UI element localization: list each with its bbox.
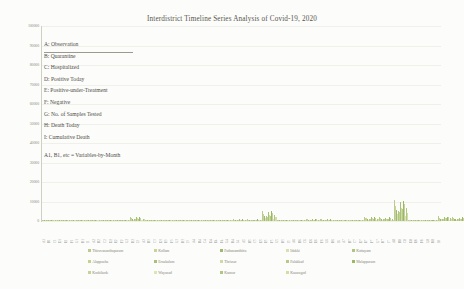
x-axis-label: E1 [64, 223, 68, 243]
x-axis-label: E4 [214, 223, 218, 243]
legend-item[interactable]: Wayanad [154, 267, 220, 278]
bar-group [423, 26, 438, 221]
bar-group [438, 26, 453, 221]
legend-item[interactable]: Alappuzha [88, 256, 154, 267]
legend-item[interactable]: Thrissur [220, 256, 286, 267]
x-axis-label: A3 [142, 223, 146, 243]
legend-swatch [286, 271, 289, 274]
x-axis-label: A7 [342, 223, 346, 243]
x-axis-label: H5 [281, 223, 285, 243]
legend-item[interactable]: Idukki [286, 245, 352, 256]
legend-label: Kasaragod [290, 271, 306, 275]
x-axis-label-cell: D4 [208, 223, 214, 243]
x-axis-label: F3 [170, 223, 174, 243]
x-axis-label: H3 [181, 223, 185, 243]
bar-group [452, 26, 464, 221]
legend-swatch [154, 260, 157, 263]
x-axis-label-cell: F4 [219, 223, 225, 243]
x-axis-labels: A1B1C1D1E1F1G1H1I1A2B2C2D2E2F2G2H2I2A3B3… [41, 223, 441, 243]
x-axis-label-cell: H5 [280, 223, 286, 243]
legend-swatch [352, 260, 355, 263]
bar-group [262, 26, 277, 221]
variable-key: A: ObservationB: QuarantineC: Hospitaliz… [44, 39, 162, 143]
y-axis-tick-label: 40000 [30, 141, 39, 145]
x-axis-label: I5 [287, 223, 291, 243]
y-axis-tick-label: 60000 [30, 102, 39, 106]
x-axis-label: C6 [303, 223, 307, 243]
variable-key-row: G: No. of Samples Tested [44, 109, 162, 121]
x-axis-label: C4 [203, 223, 207, 243]
legend-label: Malappuram [356, 260, 375, 264]
variable-key-row: D: Positive Today [44, 74, 162, 86]
variable-key-row: A: Observation [44, 39, 162, 51]
variable-key-row: C: Hospitalized [44, 62, 162, 74]
x-axis-label: A5 [242, 223, 246, 243]
x-axis-label-cell: E1 [63, 223, 69, 243]
x-axis-label: D3 [159, 223, 163, 243]
legend-item[interactable]: Ernakulam [154, 256, 220, 267]
legend-item[interactable]: Malappuram [352, 256, 418, 267]
legend-item[interactable]: Thiruvananthapuram [88, 245, 154, 256]
y-axis-tick-label: 10000 [30, 200, 39, 204]
legend-swatch [88, 249, 91, 252]
legend-label: Alappuzha [92, 260, 108, 264]
legend-label: Ernakulam [158, 260, 174, 264]
x-axis-label: B4 [198, 223, 202, 243]
x-axis-label: F1 [70, 223, 74, 243]
x-axis-label-cell: H1 [80, 223, 86, 243]
x-axis-label: F6 [320, 223, 324, 243]
x-axis-label: G6 [325, 223, 329, 243]
x-axis-label-cell: C2 [102, 223, 108, 243]
x-axis-label: F5 [270, 223, 274, 243]
bar-group [291, 26, 306, 221]
x-axis-label: B7 [348, 223, 352, 243]
x-axis-label-cell: H3 [180, 223, 186, 243]
legend-item[interactable]: Kottayam [352, 245, 418, 256]
bar-group [203, 26, 218, 221]
x-axis-label: D1 [58, 223, 62, 243]
x-axis-label: B5 [248, 223, 252, 243]
variable-key-row: H: Death Today [44, 120, 162, 132]
x-axis-label: E7 [364, 223, 368, 243]
legend-item[interactable]: Palakkad [286, 256, 352, 267]
x-axis-label: C8 [403, 223, 407, 243]
x-axis-label-cell: F2 [119, 223, 125, 243]
x-axis-label: F7 [370, 223, 374, 243]
legend-item[interactable]: Kozhikode [88, 267, 154, 278]
x-axis-label: G8 [426, 223, 430, 243]
x-axis-label: C7 [353, 223, 357, 243]
bar-group [408, 26, 423, 221]
x-axis-label-cell: F5 [269, 223, 275, 243]
legend-swatch [220, 249, 223, 252]
x-axis-label: F4 [220, 223, 224, 243]
x-axis-label: D4 [209, 223, 213, 243]
legend-item[interactable]: Kannur [220, 267, 286, 278]
district-legend: ThiruvananthapuramKollamPathanamthittaId… [88, 245, 418, 278]
x-axis-label: C2 [103, 223, 107, 243]
bar-group [247, 26, 262, 221]
legend-item[interactable]: Kasaragod [286, 267, 352, 278]
x-axis-label: G5 [275, 223, 279, 243]
x-axis-label-cell: F1 [69, 223, 75, 243]
legend-label: Idukki [290, 249, 300, 253]
legend-swatch [88, 260, 91, 263]
x-axis-label: D7 [359, 223, 363, 243]
y-axis-tick-label: 30000 [30, 161, 39, 165]
x-axis-label: E8 [414, 223, 418, 243]
legend-item[interactable]: Pathanamthitta [220, 245, 286, 256]
x-axis-label: G3 [175, 223, 179, 243]
x-axis-label-cell: I6 [336, 223, 342, 243]
x-axis-label: D6 [309, 223, 313, 243]
legend-item[interactable]: Kollam [154, 245, 220, 256]
y-axis-tick-label: 0 [37, 219, 39, 223]
bar-group [335, 26, 350, 221]
x-axis-label: E2 [114, 223, 118, 243]
bar-group [189, 26, 204, 221]
x-axis-label: E6 [314, 223, 318, 243]
x-axis-label: A8 [392, 223, 396, 243]
x-axis-label-cell: A1 [41, 223, 47, 243]
x-axis-label: G2 [125, 223, 129, 243]
x-axis-label-cell: B7 [347, 223, 353, 243]
x-axis-label-cell: D8 [408, 223, 414, 243]
x-axis-label-cell: F8 [419, 223, 425, 243]
